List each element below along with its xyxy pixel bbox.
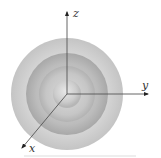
y-axis-label: y: [141, 79, 149, 92]
concentric-spheres-diagram: z y x: [0, 0, 161, 158]
x-axis-label: x: [29, 142, 36, 155]
z-axis-label: z: [72, 7, 79, 20]
